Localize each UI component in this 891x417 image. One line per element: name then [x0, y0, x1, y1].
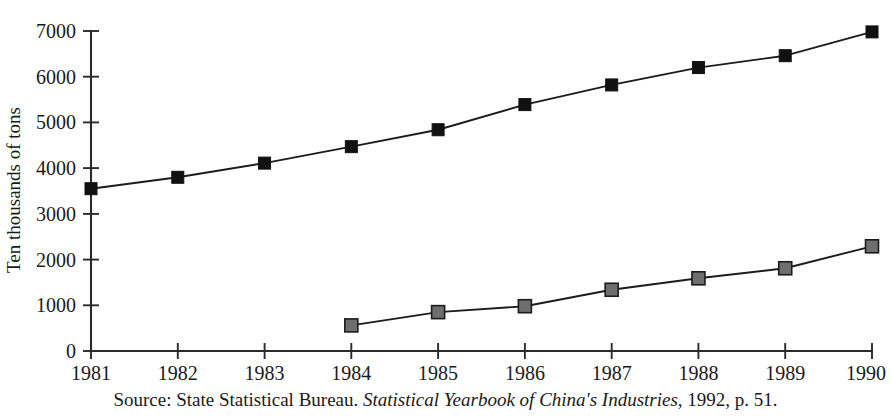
x-tick-label-1990: 1990 — [846, 362, 886, 384]
caption-italic-title: Statistical Yearbook of China's Industri… — [363, 389, 678, 410]
caption-prefix: Source: State Statistical Bureau. — [113, 389, 363, 410]
data-point-1984-upper-series — [345, 141, 357, 153]
x-tick-label-1988: 1988 — [678, 362, 718, 384]
y-tick-label-7000: 7000 — [36, 20, 76, 42]
series-line-upper-series — [91, 32, 872, 189]
y-tick-label-0: 0 — [66, 340, 76, 362]
data-series-layer — [85, 26, 879, 332]
y-axis-tick-labels: 7000 6000 5000 4000 3000 2000 1000 0 — [36, 20, 76, 362]
x-axis-tick-labels: 1981 1982 1983 1984 1985 1986 1987 1988 … — [71, 362, 886, 384]
series-upper-series — [85, 26, 878, 195]
data-point-1985-lower-series — [432, 306, 445, 319]
data-point-1983-upper-series — [259, 157, 271, 169]
data-point-1981-upper-series — [85, 183, 97, 195]
y-tick-label-3000: 3000 — [36, 203, 76, 225]
x-tick-label-1989: 1989 — [765, 362, 805, 384]
data-point-1987-upper-series — [606, 79, 618, 91]
data-point-1985-upper-series — [432, 124, 444, 136]
data-point-1986-upper-series — [519, 99, 531, 111]
data-point-1987-lower-series — [605, 283, 618, 296]
y-tick-label-5000: 5000 — [36, 111, 76, 133]
data-point-1988-lower-series — [692, 272, 705, 285]
x-tick-label-1981: 1981 — [71, 362, 111, 384]
y-tick-label-4000: 4000 — [36, 157, 76, 179]
x-tick-label-1984: 1984 — [331, 362, 371, 384]
y-tick-label-1000: 1000 — [36, 294, 76, 316]
y-axis-title: Ten thousands of tons — [3, 107, 24, 273]
x-tick-label-1983: 1983 — [245, 362, 285, 384]
x-tick-label-1985: 1985 — [418, 362, 458, 384]
data-point-1986-lower-series — [518, 300, 531, 313]
data-point-1988-upper-series — [692, 62, 704, 74]
data-point-1989-upper-series — [779, 50, 791, 62]
y-tick-label-2000: 2000 — [36, 249, 76, 271]
data-point-1982-upper-series — [172, 171, 184, 183]
x-tick-label-1987: 1987 — [592, 362, 632, 384]
source-caption: Source: State Statistical Bureau. Statis… — [0, 389, 891, 411]
data-point-1989-lower-series — [779, 262, 792, 275]
caption-suffix: , 1992, p. 51. — [678, 389, 778, 410]
x-tick-label-1982: 1982 — [158, 362, 198, 384]
chart-figure: Ten thousands of tons 7000 6000 5000 400… — [0, 0, 891, 417]
data-point-1990-upper-series — [866, 26, 878, 38]
line-chart-plot: Ten thousands of tons 7000 6000 5000 400… — [0, 0, 891, 417]
series-lower-series — [345, 240, 879, 332]
data-point-1984-lower-series — [345, 319, 358, 332]
x-tick-label-1986: 1986 — [505, 362, 545, 384]
data-point-1990-lower-series — [866, 240, 879, 253]
y-tick-label-6000: 6000 — [36, 66, 76, 88]
